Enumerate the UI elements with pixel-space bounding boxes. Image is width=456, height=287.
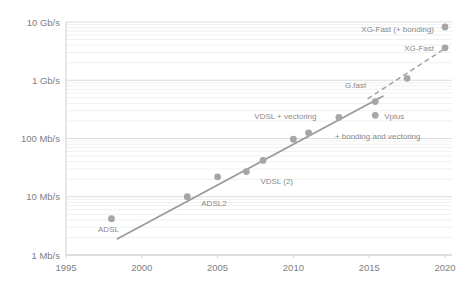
data-point-label: XG-Fast	[404, 44, 435, 53]
trend-line-solid	[118, 96, 383, 238]
data-point-label: XG-Fast (+ bonding)	[361, 25, 434, 34]
data-point	[305, 129, 312, 136]
y-axis-tick-label: 1 Gb/s	[32, 75, 60, 86]
data-point-label: ADSL	[98, 225, 119, 234]
x-axis-tick-label: 2015	[359, 262, 380, 273]
data-point	[372, 112, 379, 119]
y-axis-tick-label: 100 Mb/s	[21, 133, 60, 144]
x-axis-tick-label: 2005	[207, 262, 228, 273]
data-point	[335, 114, 342, 121]
data-point	[184, 193, 191, 200]
data-point	[290, 136, 297, 143]
data-point-label: Vplus	[384, 112, 404, 121]
data-point	[442, 24, 449, 31]
trend-line-dashed	[368, 46, 448, 98]
data-point-label: ADSL2	[201, 199, 227, 208]
broadband-speed-evolution-chart: 1 Mb/s10 Mb/s100 Mb/s1 Gb/s10 Gb/s 19952…	[0, 0, 456, 287]
data-point	[260, 157, 267, 164]
data-point	[214, 173, 221, 180]
data-point	[108, 215, 115, 222]
data-point-label: VDSL (2)	[260, 177, 293, 186]
x-axis-tick-label: 2010	[283, 262, 304, 273]
data-point	[372, 98, 379, 105]
data-points-group	[108, 24, 448, 222]
data-point	[404, 75, 411, 82]
x-axis-tick-labels: 199520002005201020152020	[55, 262, 455, 273]
y-axis-tick-label: 1 Mb/s	[31, 250, 60, 261]
x-axis-tick-label: 2020	[434, 262, 455, 273]
minor-gridlines-group	[66, 25, 452, 238]
y-axis-tick-labels: 1 Mb/s10 Mb/s100 Mb/s1 Gb/s10 Gb/s	[21, 17, 60, 261]
data-point	[442, 44, 449, 51]
x-axis-tick-label: 2000	[131, 262, 152, 273]
y-axis-tick-label: 10 Gb/s	[27, 17, 61, 28]
y-axis-tick-label: 10 Mb/s	[26, 191, 60, 202]
data-point-label: + bonding and vectoring	[335, 132, 421, 141]
data-point-label: G.fast	[345, 81, 367, 90]
x-axis-tick-label: 1995	[55, 262, 76, 273]
data-point-label: VDSL + vectoring	[254, 112, 316, 121]
data-point	[243, 168, 250, 175]
chart-container: 1 Mb/s10 Mb/s100 Mb/s1 Gb/s10 Gb/s 19952…	[0, 0, 456, 287]
